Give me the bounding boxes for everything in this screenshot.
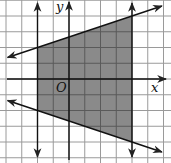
origin-label: O	[56, 80, 67, 95]
inequality-graph: y x O	[0, 0, 171, 163]
y-axis-label: y	[55, 0, 64, 14]
x-axis-label: x	[151, 80, 159, 95]
